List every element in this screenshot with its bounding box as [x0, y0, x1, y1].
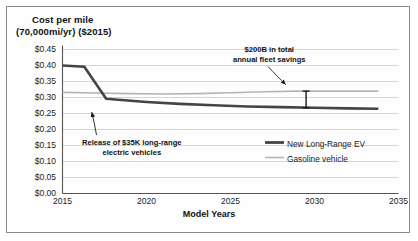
- y-tick-label: $0.25: [12, 108, 56, 118]
- legend-label-gasoline: Gasoline vehicle: [287, 154, 348, 164]
- y-tick-label: $0.10: [12, 156, 56, 166]
- y-tick-label: $0.35: [12, 76, 56, 86]
- legend-label-ev: New Long-Range EV: [287, 139, 365, 149]
- x-axis-label: Model Years: [0, 209, 418, 219]
- y-tick-label: $0.05: [12, 172, 56, 182]
- y-tick-label: $0.30: [12, 92, 56, 102]
- x-tick-label: 2020: [125, 196, 169, 206]
- y-tick-label: $0.15: [12, 140, 56, 150]
- release-annotation-line2: electric vehicles: [82, 148, 182, 158]
- x-tick-label: 2015: [41, 196, 85, 206]
- chart-figure: Cost per mile (70,000mi/yr) ($2015) Rele…: [0, 0, 418, 241]
- y-tick-label: $0.45: [12, 44, 56, 54]
- series-line-new-long-range-ev: [63, 66, 379, 109]
- release-annotation: Release of $35K long-range electric vehi…: [82, 138, 182, 157]
- release-annotation-arrow: [92, 112, 97, 135]
- y-tick-label: $0.40: [12, 60, 56, 70]
- savings-annotation: $200B in total annual fleet savings: [233, 45, 306, 64]
- series-line-gasoline-vehicle: [63, 91, 379, 94]
- x-tick-label: 2025: [209, 196, 253, 206]
- x-tick-label: 2035: [377, 196, 418, 206]
- x-tick-label: 2030: [293, 196, 337, 206]
- release-annotation-line1: Release of $35K long-range: [82, 138, 182, 148]
- savings-annotation-line2: annual fleet savings: [233, 55, 306, 65]
- savings-annotation-line1: $200B in total: [233, 45, 306, 55]
- y-tick-label: $0.20: [12, 124, 56, 134]
